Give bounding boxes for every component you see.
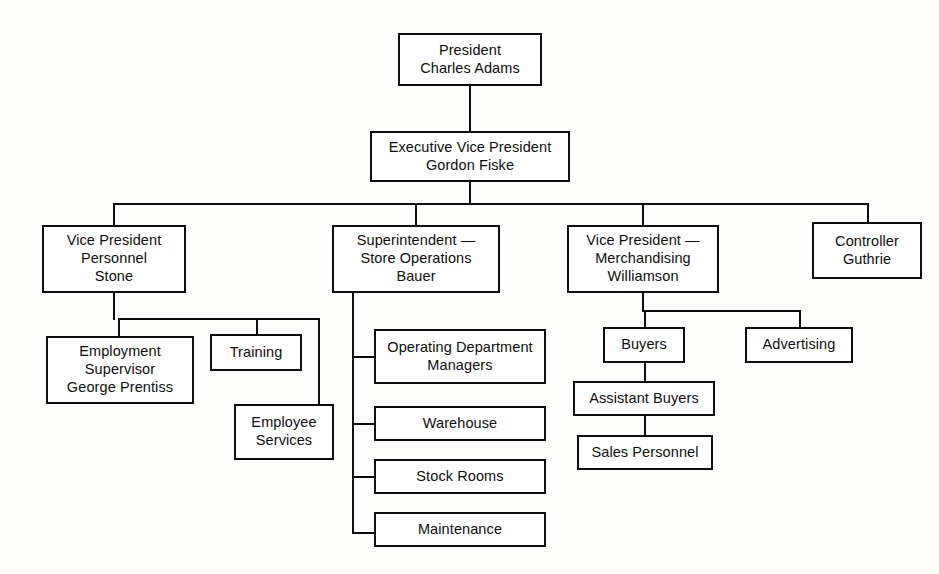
org-box-vp_merchandising[interactable]: Vice President — Merchandising Williamso…: [567, 225, 719, 293]
org-box-employee_services[interactable]: Employee Services: [234, 404, 334, 460]
connector-bus-drop-merchandising: [642, 203, 644, 225]
org-box-president[interactable]: President Charles Adams: [398, 33, 542, 86]
connector-tier2-bus: [113, 203, 867, 205]
org-box-operating_dept[interactable]: Operating Department Managers: [374, 329, 546, 384]
connector-bus-drop-controller: [867, 203, 869, 222]
org-chart-canvas: President Charles AdamsExecutive Vice Pr…: [0, 0, 939, 574]
connector-bus-drop-superintendent: [415, 203, 417, 225]
org-box-label-exec_vp: Executive Vice President Gordon Fiske: [377, 139, 563, 175]
connector-personnel-drop-empservices: [318, 318, 320, 410]
connector-personnel-drop-training: [256, 318, 258, 334]
org-box-employment_sup[interactable]: Employment Supervisor George Prentiss: [46, 336, 194, 404]
org-box-label-president: President Charles Adams: [405, 42, 535, 78]
connector-merch-drop-buyers: [644, 310, 646, 328]
org-box-stock_rooms[interactable]: Stock Rooms: [374, 459, 546, 494]
org-box-label-vp_merchandising: Vice President — Merchandising Williamso…: [574, 232, 712, 286]
org-box-label-sales_personnel: Sales Personnel: [584, 444, 706, 462]
org-box-label-controller: Controller Guthrie: [819, 233, 915, 269]
connector-super-stub-maintenance: [352, 532, 376, 534]
org-box-maintenance[interactable]: Maintenance: [374, 512, 546, 547]
org-box-training[interactable]: Training: [210, 334, 302, 371]
org-box-vp_personnel[interactable]: Vice President Personnel Stone: [42, 225, 186, 293]
connector-merch-drop-advertising: [799, 310, 801, 328]
connector-bus-drop-personnel: [113, 203, 115, 225]
org-box-warehouse[interactable]: Warehouse: [374, 406, 546, 441]
org-box-label-maintenance: Maintenance: [381, 521, 539, 539]
org-box-exec_vp[interactable]: Executive Vice President Gordon Fiske: [370, 131, 570, 182]
connector-personnel-down: [113, 293, 115, 320]
connector-president-down: [469, 86, 471, 131]
org-box-buyers[interactable]: Buyers: [603, 327, 685, 363]
connector-super-stub-warehouse: [352, 423, 376, 425]
org-box-label-superintendent: Superintendent — Store Operations Bauer: [339, 232, 493, 286]
connector-merch-bus: [644, 310, 799, 312]
connector-buyers-to-assistant: [644, 363, 646, 382]
org-box-superintendent[interactable]: Superintendent — Store Operations Bauer: [332, 225, 500, 293]
org-box-label-warehouse: Warehouse: [381, 415, 539, 433]
org-box-assistant_buyers[interactable]: Assistant Buyers: [573, 381, 715, 416]
org-box-label-employee_services: Employee Services: [241, 414, 327, 450]
org-box-advertising[interactable]: Advertising: [745, 327, 853, 363]
connector-personnel-bus: [118, 318, 320, 320]
org-box-label-advertising: Advertising: [752, 336, 846, 354]
connector-personnel-drop-employment: [118, 318, 120, 336]
connector-execvp-down: [469, 182, 471, 203]
connector-super-stub-operating: [352, 356, 376, 358]
connector-super-spine: [352, 293, 354, 534]
connector-super-stub-stock: [352, 476, 376, 478]
org-box-sales_personnel[interactable]: Sales Personnel: [577, 435, 713, 470]
org-box-label-operating_dept: Operating Department Managers: [381, 339, 539, 375]
org-box-label-employment_sup: Employment Supervisor George Prentiss: [53, 343, 187, 397]
org-box-label-training: Training: [217, 344, 295, 362]
connector-assistant-to-sales: [644, 416, 646, 436]
org-box-label-vp_personnel: Vice President Personnel Stone: [49, 232, 179, 286]
org-box-controller[interactable]: Controller Guthrie: [812, 222, 922, 279]
org-box-label-assistant_buyers: Assistant Buyers: [580, 390, 708, 408]
org-box-label-stock_rooms: Stock Rooms: [381, 468, 539, 486]
org-box-label-buyers: Buyers: [610, 336, 678, 354]
